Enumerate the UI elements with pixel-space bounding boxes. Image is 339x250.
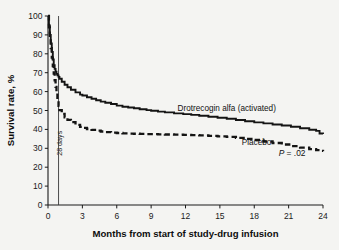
x-axis-tick-labels: 03691215182124 [46, 211, 328, 221]
y-axis-tick-label: 0 [38, 200, 43, 210]
y-axis-tick-label: 30 [33, 143, 43, 153]
x-axis-tick-label: 0 [46, 211, 51, 221]
y-axis-tick-label: 40 [33, 124, 43, 134]
reference-line-28-days-label: 28 days [55, 130, 64, 156]
x-axis-title: Months from start of study-drug infusion [93, 228, 279, 239]
y-axis-tick-label: 90 [33, 30, 43, 40]
x-axis-tick-label: 6 [114, 211, 119, 221]
y-axis-title: Survival rate, % [5, 74, 16, 146]
y-axis-tick-labels: 0102030405060708090100 [28, 11, 42, 210]
y-axis-tick-label: 50 [33, 106, 43, 116]
series-line-drotrecogin [48, 16, 323, 134]
y-axis-tick-label: 70 [33, 68, 43, 78]
y-axis-tick-label: 60 [33, 87, 43, 97]
x-axis-tick-label: 9 [149, 211, 154, 221]
p-value-annotation: P = .02 [279, 148, 306, 158]
chart-axes: 0102030405060708090100 03691215182124 [28, 11, 328, 221]
y-axis-tick-label: 80 [33, 49, 43, 59]
x-axis-tick-label: 24 [318, 211, 328, 221]
y-axis-tick-label: 20 [33, 162, 43, 172]
x-axis-tick-label: 15 [215, 211, 225, 221]
x-axis-tick-label: 3 [80, 211, 85, 221]
chart-series-group [48, 16, 323, 151]
y-axis-tick-label: 10 [33, 181, 43, 191]
series-line-placebo [48, 16, 323, 151]
y-axis-tick-label: 100 [28, 11, 42, 21]
series-label-placebo: Placebo [242, 138, 272, 147]
x-axis-tick-label: 21 [284, 211, 294, 221]
series-label-treatment: Drotrecogin alfa (activated) [178, 104, 277, 113]
x-axis-tick-label: 18 [250, 211, 260, 221]
chart-canvas: 0102030405060708090100 03691215182124 28… [0, 0, 339, 250]
x-axis-tick-label: 12 [181, 211, 191, 221]
survival-chart-figure: 0102030405060708090100 03691215182124 28… [0, 0, 339, 250]
